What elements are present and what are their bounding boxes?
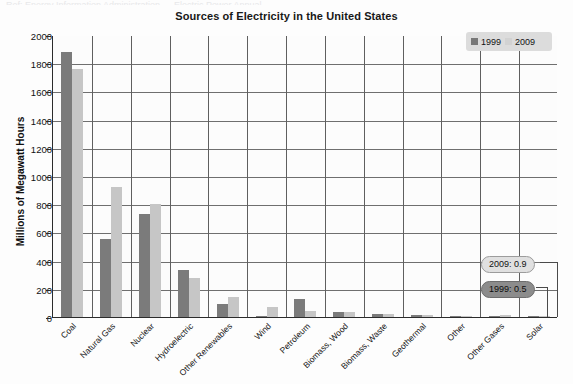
legend[interactable]: 1999 2009 [466, 32, 552, 51]
gridline-horizontal [53, 92, 557, 93]
gridline-vertical [441, 36, 442, 317]
bar-2009-biomass-waste[interactable] [383, 314, 394, 317]
y-tick-mark [46, 149, 51, 150]
x-tick-label-geothermal: Geothermal [390, 321, 428, 359]
bar-1999-other-renewables[interactable] [217, 304, 228, 317]
bar-group[interactable] [208, 297, 247, 317]
bar-1999-coal[interactable] [61, 52, 72, 317]
legend-item-1999[interactable]: 1999 [471, 37, 501, 47]
legend-swatch-1999-icon [471, 38, 478, 45]
gridline-vertical [403, 36, 404, 317]
bar-1999-natural-gas[interactable] [100, 239, 111, 317]
gridline-vertical [480, 36, 481, 317]
bar-1999-biomass-waste[interactable] [372, 314, 383, 317]
bar-2009-geothermal[interactable] [422, 315, 433, 317]
bar-1999-solar[interactable] [528, 316, 539, 317]
bar-1999-nuclear[interactable] [139, 214, 150, 317]
bar-group[interactable] [170, 270, 209, 317]
gridline-horizontal [53, 121, 557, 122]
gridline-horizontal [53, 149, 557, 150]
y-tick-mark [46, 318, 51, 319]
gridline-vertical [286, 36, 287, 317]
bar-2009-hydroelectric[interactable] [189, 278, 200, 317]
bar-1999-geothermal[interactable] [411, 315, 422, 317]
gridline-vertical [247, 36, 248, 317]
gridline-horizontal [53, 64, 557, 65]
y-tick-mark [46, 233, 51, 234]
y-tick-mark [46, 121, 51, 122]
bar-group[interactable] [480, 315, 519, 317]
bar-2009-other-renewables[interactable] [228, 297, 239, 317]
x-tick-label-nuclear: Nuclear [128, 321, 156, 349]
x-tick-label-petroleum: Petroleum [277, 321, 311, 355]
callout-leader-2009-horizontal [540, 262, 558, 263]
x-tick-label-other: Other [445, 321, 467, 343]
callout-leader-2009-vertical [557, 262, 558, 317]
bar-group[interactable] [286, 299, 325, 317]
bar-2009-biomass-wood[interactable] [344, 312, 355, 317]
bar-1999-other-gases[interactable] [489, 316, 500, 317]
plot-area [52, 36, 557, 318]
bar-group[interactable] [441, 316, 480, 317]
x-tick-label-natural-gas: Natural Gas [78, 321, 117, 360]
gridline-vertical [325, 36, 326, 317]
x-tick-label-hydroelectric: Hydroelectric [153, 321, 195, 363]
callout-leader-1999-vertical [547, 287, 548, 317]
bar-2009-wind[interactable] [267, 307, 278, 317]
y-tick-mark [46, 177, 51, 178]
y-tick-mark [46, 262, 51, 263]
bar-2009-nuclear[interactable] [150, 204, 161, 317]
bar-group[interactable] [53, 52, 92, 317]
bar-2009-petroleum[interactable] [305, 311, 316, 317]
bar-group[interactable] [519, 316, 558, 317]
bar-group[interactable] [92, 187, 131, 317]
bar-group[interactable] [131, 204, 170, 317]
legend-item-2009[interactable]: 2009 [505, 37, 535, 47]
y-tick-mark [46, 64, 51, 65]
bar-1999-wind[interactable] [256, 316, 267, 317]
bar-2009-other[interactable] [461, 316, 472, 317]
legend-label-1999: 1999 [481, 37, 501, 47]
callout-1999[interactable]: 1999: 0.5 [481, 281, 535, 298]
x-tick-label-other-gases: Other Gases [465, 321, 506, 362]
y-axis: Millions of Megawatt Hours 0200400600800… [0, 36, 52, 319]
top-cropped-text: Ref: Energy Information Administration —… [6, 0, 426, 5]
bar-group[interactable] [325, 312, 364, 317]
y-tick-mark [46, 36, 51, 37]
bar-1999-hydroelectric[interactable] [178, 270, 189, 317]
gridline-vertical [519, 36, 520, 317]
x-tick-label-coal: Coal [59, 321, 78, 340]
x-tick-label-solar: Solar [524, 321, 545, 342]
chart-title: Sources of Electricity in the United Sta… [0, 10, 573, 22]
legend-swatch-2009-icon [505, 38, 512, 45]
bar-group[interactable] [403, 315, 442, 317]
bar-1999-petroleum[interactable] [294, 299, 305, 317]
y-tick-mark [46, 92, 51, 93]
legend-label-2009: 2009 [515, 37, 535, 47]
bar-2009-natural-gas[interactable] [111, 187, 122, 317]
x-tick-label-wind: Wind [252, 321, 273, 342]
y-tick-mark [46, 290, 51, 291]
bar-group[interactable] [364, 314, 403, 317]
gridline-vertical [364, 36, 365, 317]
bar-chart: Ref: Energy Information Administration —… [0, 0, 573, 384]
y-tick-mark [46, 205, 51, 206]
bar-group[interactable] [247, 307, 286, 317]
bar-1999-biomass-wood[interactable] [333, 312, 344, 317]
gridline-horizontal [53, 177, 557, 178]
bar-2009-other-gases[interactable] [500, 315, 511, 317]
callout-2009[interactable]: 2009: 0.9 [481, 256, 535, 273]
bar-1999-other[interactable] [450, 316, 461, 317]
bar-2009-coal[interactable] [72, 69, 83, 317]
